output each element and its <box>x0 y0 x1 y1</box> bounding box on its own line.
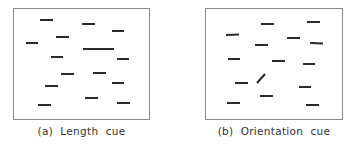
caption-b: (b) Orientation cue <box>205 125 343 137</box>
panel-b-segments <box>226 22 323 105</box>
target-segment <box>257 74 265 83</box>
caption-a: (a) Length cue <box>13 125 150 137</box>
distractor-segment <box>226 35 239 36</box>
distractor-segment <box>310 43 323 44</box>
panel-a-segments <box>26 20 130 105</box>
